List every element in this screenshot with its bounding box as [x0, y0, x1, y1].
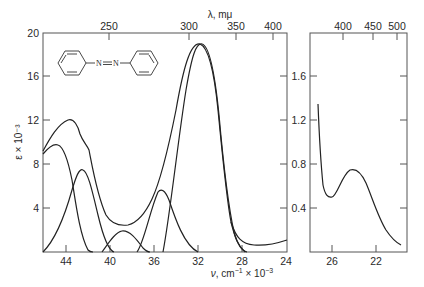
x-tick-28: 28	[236, 255, 248, 267]
band-b-curve	[43, 170, 114, 252]
right-plot-frame	[310, 33, 407, 252]
right-y-tick-0.4: 0.4	[291, 202, 306, 214]
right-x-tick-26: 26	[326, 255, 338, 267]
left-curves	[43, 44, 287, 252]
right-top-tick-450: 450	[364, 20, 382, 32]
n-pi-star-band-curve	[318, 104, 401, 245]
y-tick-4: 4	[33, 202, 39, 214]
left-plot-frame	[43, 33, 287, 252]
structure-n1: N	[96, 59, 102, 68]
x-axis-title: ν, cm−1 × 10−3	[211, 267, 273, 279]
y-tick-20: 20	[27, 27, 39, 39]
x-tick-24: 24	[280, 255, 292, 267]
band-c-curve	[102, 231, 150, 252]
left-y-ticks	[43, 76, 287, 208]
right-y-tick-1.2: 1.2	[291, 114, 306, 126]
top-tick-350: 350	[227, 20, 245, 32]
chart-canvas: 20 16 12 8 4 ε × 10⁻³ 44 40 36 32 28 24 …	[0, 0, 424, 287]
top-tick-400: 400	[264, 20, 282, 32]
structure-n2: N	[113, 59, 119, 68]
right-panel: 1.6 1.2 0.8 0.4 26 22 400 450 500	[291, 20, 407, 267]
x-tick-36: 36	[148, 255, 160, 267]
right-top-tick-400: 400	[334, 20, 352, 32]
y-tick-12: 12	[27, 114, 39, 126]
right-ticks	[310, 33, 407, 252]
band-a-curve	[43, 145, 93, 252]
y-tick-8: 8	[33, 158, 39, 170]
left-panel: 20 16 12 8 4 ε × 10⁻³ 44 40 36 32 28 24 …	[13, 9, 292, 279]
right-y-tick-0.8: 0.8	[291, 158, 306, 170]
top-tick-250: 250	[100, 20, 118, 32]
y-axis-title: ε × 10⁻³	[13, 124, 24, 160]
top-tick-300: 300	[180, 20, 198, 32]
left-x-ticks	[66, 245, 242, 252]
y-tick-16: 16	[27, 70, 39, 82]
band-e-curve	[163, 44, 247, 252]
right-top-tick-500: 500	[388, 20, 406, 32]
right-x-tick-22: 22	[370, 255, 382, 267]
left-top-ticks	[109, 33, 273, 40]
top-axis-title: λ, mμ	[208, 9, 233, 20]
x-tick-32: 32	[192, 255, 204, 267]
azobenzene-structure-icon	[58, 51, 158, 75]
right-y-tick-1.6: 1.6	[291, 70, 306, 82]
x-tick-44: 44	[60, 255, 72, 267]
x-tick-40: 40	[104, 255, 116, 267]
